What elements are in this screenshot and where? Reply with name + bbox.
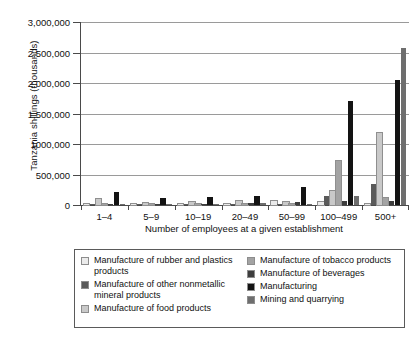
x-axis-title: Number of employees at a given establish…: [80, 223, 408, 234]
x-axis-tick: [128, 205, 129, 210]
legend-item-label: Mining and quarrying: [260, 294, 344, 305]
plot-area: 0500,0001000,0001,500,0002,000,0002,500,…: [80, 22, 408, 205]
legend-item: Manufacture of food products: [81, 303, 249, 314]
y-axis-tick: [73, 175, 81, 176]
bar: [271, 201, 276, 205]
bar-group: [175, 22, 222, 205]
bar: [143, 203, 148, 205]
bar-group: [362, 22, 409, 205]
legend-item: Manufacture of tobacco products: [247, 255, 403, 266]
bar: [336, 161, 341, 205]
bar: [389, 201, 394, 205]
x-axis-tick-label: 20–49: [222, 211, 269, 222]
bar: [230, 204, 235, 205]
y-axis-tick-label: 2,500,000: [28, 47, 70, 58]
bar: [248, 203, 253, 205]
legend-item-label: Manufacture of rubber and plastics produ…: [94, 255, 249, 277]
bar: [108, 204, 113, 205]
bar-group: [268, 22, 315, 205]
x-axis-tick-label: 50–99: [268, 211, 315, 222]
bar: [383, 198, 388, 205]
bar: [201, 204, 206, 205]
x-axis-tick: [408, 205, 409, 210]
bar: [213, 204, 218, 205]
bar: [354, 196, 359, 205]
x-axis-tick: [315, 205, 316, 210]
x-axis-tick: [175, 205, 176, 210]
bar: [224, 204, 229, 205]
legend-swatch-icon: [247, 270, 255, 278]
bar: [295, 202, 300, 205]
y-axis-tick-label: 0: [65, 200, 70, 211]
legend-swatch-icon: [81, 281, 89, 289]
bar: [318, 202, 323, 205]
y-axis-tick-label: 1000,000: [30, 139, 70, 150]
bar: [131, 204, 136, 205]
bar: [236, 201, 241, 205]
y-axis-tick-label: 2,000,000: [28, 78, 70, 89]
x-axis-tick-label: 1–4: [81, 211, 128, 222]
bar-group: [315, 22, 362, 205]
legend-item-label: Manufacture of beverages: [260, 268, 365, 279]
x-axis-tick: [268, 205, 269, 210]
y-axis-tick: [73, 53, 81, 54]
bar: [184, 204, 189, 205]
axis-baseline: [81, 205, 409, 206]
bar: [365, 204, 370, 205]
y-axis-tick-label: 500,000: [36, 169, 70, 180]
bar: [96, 199, 101, 205]
bar: [155, 204, 160, 205]
legend-item-label: Manufacture of tobacco products: [260, 255, 391, 266]
bar: [195, 204, 200, 205]
y-axis-tick: [73, 205, 81, 206]
bar: [102, 204, 107, 205]
x-axis-tick-label: 500+: [362, 211, 409, 222]
legend-swatch-icon: [81, 305, 89, 313]
bar: [307, 204, 312, 205]
bar: [160, 198, 165, 205]
y-axis-tick: [73, 144, 81, 145]
bar: [277, 204, 282, 205]
bar: [178, 204, 183, 205]
legend-item-label: Manufacturing: [260, 281, 317, 292]
bar: [84, 204, 89, 205]
bar: [149, 204, 154, 205]
legend-column-right: Manufacture of tobacco productsManufactu…: [247, 255, 403, 307]
bar: [342, 201, 347, 205]
bar-series-container: [81, 22, 409, 205]
bar-group: [81, 22, 128, 205]
bar-group: [222, 22, 269, 205]
y-axis-tick: [73, 114, 81, 115]
bar: [166, 204, 171, 205]
legend-item: Manufacturing: [247, 281, 403, 292]
legend-item-label: Manufacture of food products: [94, 303, 211, 314]
x-axis-tick-label: 100–499: [315, 211, 362, 222]
legend-item-label: Manufacture of other nonmetallic mineral…: [94, 279, 249, 301]
y-axis-tick: [73, 83, 81, 84]
legend-swatch-icon: [247, 296, 255, 304]
bar: [371, 184, 376, 205]
bar: [377, 133, 382, 205]
legend-swatch-icon: [247, 283, 255, 291]
bar: [330, 191, 335, 205]
bar: [289, 204, 294, 205]
bar: [120, 204, 125, 205]
legend-item: Manufacture of other nonmetallic mineral…: [81, 279, 249, 301]
legend-item: Manufacture of rubber and plastics produ…: [81, 255, 249, 277]
y-axis-tick-label: 1,500,000: [28, 108, 70, 119]
bar: [260, 203, 265, 205]
bar: [348, 101, 353, 205]
bar: [254, 196, 259, 205]
x-axis-tick: [81, 205, 82, 210]
bar: [90, 204, 95, 205]
x-axis-tick-label: 5–9: [128, 211, 175, 222]
legend-swatch-icon: [247, 257, 255, 265]
bar: [189, 202, 194, 205]
y-axis-tick: [73, 22, 81, 23]
bar: [324, 196, 329, 205]
bar: [301, 187, 306, 205]
x-axis-tick-label: 10–19: [175, 211, 222, 222]
legend-column-left: Manufacture of rubber and plastics produ…: [81, 255, 249, 316]
bar: [395, 80, 400, 205]
bar: [283, 202, 288, 205]
